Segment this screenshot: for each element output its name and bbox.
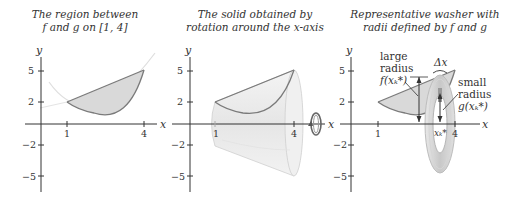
small-radius-label-line1: small [458,76,487,88]
panel2-graph: x y 1 4 5 2 −2 −5 [171,44,335,192]
panel3-x-label: x [482,118,489,131]
panel2-y-tick-neg2: −2 [171,139,185,150]
small-radius-expr: g(xₖ*) [458,100,488,112]
panel3-y-tick-neg5: −5 [333,171,347,182]
diagram-canvas: x y 1 4 5 2 −2 −5 x y 1 [0,0,510,201]
panel1-y-tick-neg2: −2 [22,139,36,150]
panel1-x-label: x [160,118,167,131]
panel1-y-tick-2: 2 [28,96,34,107]
panel2-x-label: x [328,118,335,131]
panel3-x-tick-1: 1 [375,128,381,139]
small-radius-label-line2: radius [458,88,492,100]
delta-x-label: Δx [433,56,448,68]
panel1-y-label: y [35,44,43,57]
panel3-y-tick-5: 5 [339,65,345,76]
panel2-x-tick-4: 4 [291,128,297,139]
panel2-x-tick-1: 1 [213,128,219,139]
panel3-y-label: y [345,44,353,57]
panel1-graph: x y 1 4 5 2 −2 −5 [22,44,167,192]
panel3-y-tick-2: 2 [339,96,345,107]
panel3-y-tick-neg2: −2 [333,139,347,150]
panel1-x-tick-1: 1 [64,128,70,139]
panel3-graph: large radius f(xₖ*) small radius g(xₖ*) … [333,44,492,192]
panel2-y-tick-2: 2 [177,96,183,107]
panel1-x-tick-4: 4 [141,128,147,139]
large-radius-label-line2: radius [380,62,414,74]
panel2-y-tick-5: 5 [177,65,183,76]
panel1-faint-line [40,102,67,108]
panel2-y-tick-neg5: −5 [171,171,185,182]
delta-x-brace [433,71,447,74]
panel1-y-tick-neg5: −5 [22,171,36,182]
panel3-x-tick-4: 4 [452,128,458,139]
panel1-y-tick-5: 5 [28,65,34,76]
xk-star-label: xₖ* [434,128,447,138]
panel2-y-label: y [184,44,192,57]
large-radius-expr: f(xₖ*) [379,74,407,86]
large-radius-label-line1: large [380,50,408,62]
